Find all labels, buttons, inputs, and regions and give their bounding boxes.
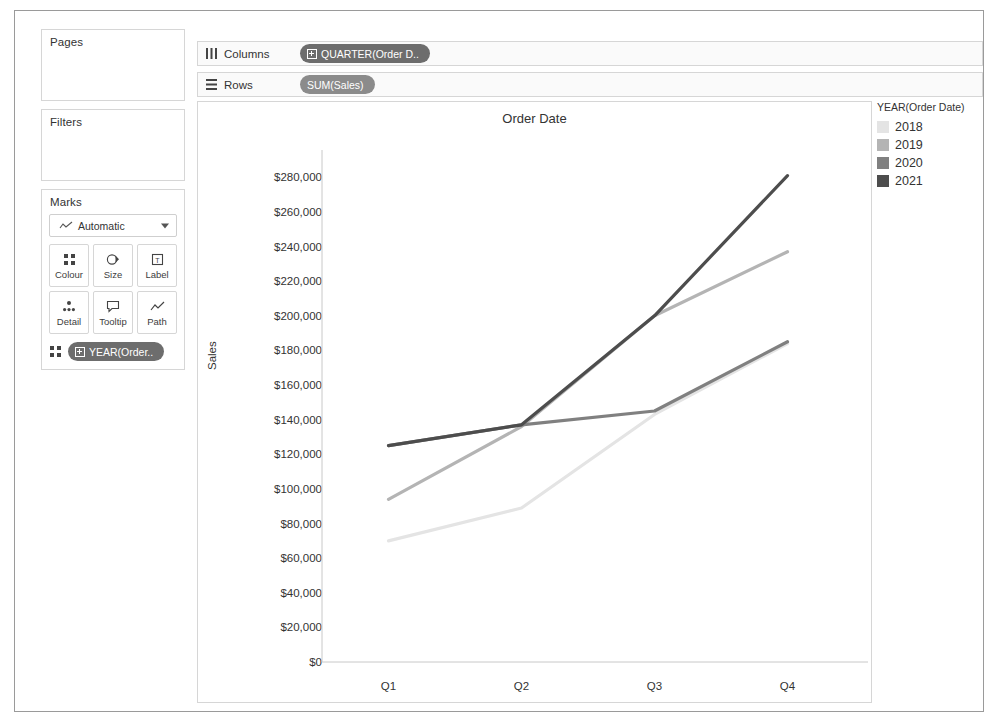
marks-size-button[interactable]: Size xyxy=(93,244,133,287)
columns-shelf[interactable]: Columns QUARTER(Order D.. xyxy=(197,41,983,66)
visualization-pane[interactable]: Order Date Sales $0$20,000$40,000$60,000… xyxy=(197,101,872,703)
rows-shelf-pill[interactable]: SUM(Sales) xyxy=(300,75,375,94)
filters-card[interactable]: Filters xyxy=(41,109,185,181)
columns-icon xyxy=(205,48,218,59)
marks-card: Marks Automatic Colour xyxy=(41,189,185,370)
legend-item[interactable]: 2019 xyxy=(877,138,983,152)
legend-swatch xyxy=(877,175,889,187)
marks-detail-button[interactable]: Detail xyxy=(49,291,89,334)
legend-title: YEAR(Order Date) xyxy=(877,101,983,113)
legend-item-label: 2018 xyxy=(895,120,923,134)
legend-item-label: 2021 xyxy=(895,174,923,188)
size-icon xyxy=(106,252,121,267)
marks-type-value: Automatic xyxy=(78,220,125,232)
detail-icon xyxy=(62,299,76,314)
legend-item-label: 2020 xyxy=(895,156,923,170)
marks-colour-label: Colour xyxy=(55,270,83,280)
marks-tooltip-button[interactable]: Tooltip xyxy=(93,291,133,334)
marks-colour-pill-label: YEAR(Order.. xyxy=(89,346,153,358)
columns-shelf-pill[interactable]: QUARTER(Order D.. xyxy=(300,44,430,63)
marks-tooltip-label: Tooltip xyxy=(99,317,126,327)
path-icon xyxy=(150,299,165,314)
marks-path-button[interactable]: Path xyxy=(137,291,177,334)
rows-shelf-pill-label: SUM(Sales) xyxy=(307,79,364,91)
line-chart-icon xyxy=(59,221,73,230)
legend-item-label: 2019 xyxy=(895,138,923,152)
dimension-icon xyxy=(75,347,85,357)
tooltip-icon xyxy=(106,299,120,314)
filters-card-title: Filters xyxy=(42,110,184,132)
colour-icon xyxy=(49,344,62,359)
marks-detail-label: Detail xyxy=(57,317,81,327)
rows-icon xyxy=(205,79,218,90)
colour-icon xyxy=(63,252,76,267)
columns-shelf-label: Columns xyxy=(224,48,294,60)
legend-swatch xyxy=(877,157,889,169)
label-icon: T xyxy=(151,252,164,267)
dimension-icon xyxy=(307,49,317,59)
colour-legend: YEAR(Order Date) 2018201920202021 xyxy=(877,101,983,192)
svg-text:T: T xyxy=(155,256,160,263)
marks-label-label: Label xyxy=(145,270,168,280)
columns-shelf-pill-label: QUARTER(Order D.. xyxy=(321,48,419,60)
pages-card[interactable]: Pages xyxy=(41,29,185,101)
legend-swatch xyxy=(877,121,889,133)
marks-colour-button[interactable]: Colour xyxy=(49,244,89,287)
series-line-2020[interactable] xyxy=(389,342,788,446)
marks-encoding-row: YEAR(Order.. xyxy=(49,342,177,361)
marks-size-label: Size xyxy=(104,270,122,280)
rows-shelf-label: Rows xyxy=(224,79,294,91)
legend-item[interactable]: 2020 xyxy=(877,156,983,170)
legend-item[interactable]: 2018 xyxy=(877,120,983,134)
marks-label-button[interactable]: T Label xyxy=(137,244,177,287)
line-chart-plot xyxy=(198,102,871,702)
chevron-down-icon[interactable] xyxy=(161,223,169,228)
series-line-2021[interactable] xyxy=(389,176,788,446)
marks-path-label: Path xyxy=(147,317,167,327)
pages-card-title: Pages xyxy=(42,30,184,52)
marks-colour-pill[interactable]: YEAR(Order.. xyxy=(68,342,164,361)
rows-shelf[interactable]: Rows SUM(Sales) xyxy=(197,72,983,97)
marks-card-title: Marks xyxy=(42,190,184,212)
left-panel: Pages Filters Marks Automatic xyxy=(41,29,185,378)
marks-type-selector[interactable]: Automatic xyxy=(49,214,177,237)
tableau-worksheet-window: Pages Filters Marks Automatic xyxy=(14,10,984,712)
legend-swatch xyxy=(877,139,889,151)
marks-button-grid: Colour Size T xyxy=(49,244,177,334)
legend-item[interactable]: 2021 xyxy=(877,174,983,188)
